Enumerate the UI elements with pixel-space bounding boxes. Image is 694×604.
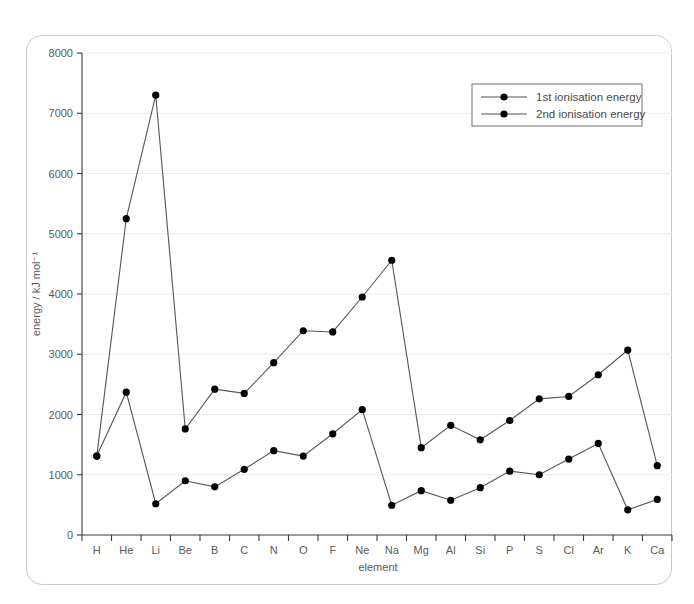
y-axis-tick-label: 1000 <box>49 469 73 481</box>
data-point <box>241 390 248 397</box>
legend-sample-marker <box>500 110 507 117</box>
data-point <box>388 502 395 509</box>
data-point <box>624 506 631 513</box>
x-axis-tick-label: Ca <box>650 544 665 556</box>
x-axis-tick-label: Na <box>385 544 400 556</box>
x-axis-tick-label: Mg <box>414 544 429 556</box>
data-point <box>123 215 130 222</box>
x-axis-tick-label: K <box>624 544 632 556</box>
data-point <box>359 293 366 300</box>
legend-label: 2nd ionisation energy <box>536 108 646 120</box>
series-2 <box>93 92 661 470</box>
data-point <box>565 455 572 462</box>
data-point <box>595 440 602 447</box>
data-point <box>93 452 100 459</box>
y-axis-title: energy / kJ mol⁻¹ <box>30 252 42 337</box>
y-axis-tick-label: 7000 <box>49 107 73 119</box>
x-axis-tick-label: Cl <box>564 544 574 556</box>
data-point <box>182 425 189 432</box>
x-axis-tick-label: Si <box>475 544 485 556</box>
y-axis-tick-label: 0 <box>67 529 73 541</box>
y-axis-tick-label: 5000 <box>49 228 73 240</box>
x-axis-tick-label: C <box>240 544 248 556</box>
data-point <box>300 452 307 459</box>
data-point <box>536 471 543 478</box>
data-point <box>624 346 631 353</box>
x-axis-group: HHeLiBeBCNOFNeNaMgAlSiPSClArKCa <box>82 535 672 556</box>
data-point <box>595 371 602 378</box>
x-axis-tick-label: F <box>329 544 336 556</box>
data-point <box>418 487 425 494</box>
x-axis-title: element <box>358 561 397 573</box>
data-point <box>241 466 248 473</box>
data-point <box>506 417 513 424</box>
data-point <box>329 328 336 335</box>
data-point <box>477 484 484 491</box>
x-axis-tick-label: S <box>536 544 543 556</box>
x-axis-tick-label: Li <box>151 544 160 556</box>
y-axis-tick-label: 3000 <box>49 348 73 360</box>
data-series-group <box>93 92 661 514</box>
series-1 <box>93 389 661 514</box>
x-axis-tick-label: Be <box>179 544 192 556</box>
y-axis-tick-label: 2000 <box>49 409 73 421</box>
data-point <box>270 447 277 454</box>
data-point <box>654 496 661 503</box>
data-point <box>388 257 395 264</box>
legend-sample-marker <box>500 93 507 100</box>
ionisation-energy-line-chart: 010002000300040005000600070008000 HHeLiB… <box>0 0 694 604</box>
data-point <box>359 406 366 413</box>
x-axis-tick-label: H <box>93 544 101 556</box>
x-axis-tick-label: B <box>211 544 218 556</box>
data-point <box>654 462 661 469</box>
series-polyline <box>97 392 658 510</box>
x-axis-tick-label: N <box>270 544 278 556</box>
data-point <box>536 395 543 402</box>
series-polyline <box>97 95 658 466</box>
x-axis-tick-label: Ne <box>355 544 369 556</box>
x-axis-tick-label: O <box>299 544 308 556</box>
data-point <box>211 386 218 393</box>
figure-root: 010002000300040005000600070008000 HHeLiB… <box>0 0 694 604</box>
y-axis-tick-label: 8000 <box>49 47 73 59</box>
data-point <box>182 477 189 484</box>
data-point <box>447 422 454 429</box>
data-point <box>506 468 513 475</box>
y-axis-group: 010002000300040005000600070008000 <box>49 47 82 541</box>
data-point <box>418 444 425 451</box>
data-point <box>211 483 218 490</box>
chart-legend: 1st ionisation energy2nd ionisation ener… <box>472 84 646 126</box>
x-axis-tick-label: P <box>506 544 513 556</box>
data-point <box>152 92 159 99</box>
y-axis-tick-label: 6000 <box>49 168 73 180</box>
data-point <box>300 327 307 334</box>
y-axis-tick-label: 4000 <box>49 288 73 300</box>
x-axis-tick-label: Ar <box>593 544 604 556</box>
data-point <box>565 393 572 400</box>
x-axis-tick-label: Al <box>446 544 456 556</box>
data-point <box>270 359 277 366</box>
data-point <box>447 497 454 504</box>
data-point <box>477 436 484 443</box>
data-point <box>329 430 336 437</box>
x-axis-tick-label: He <box>119 544 133 556</box>
data-point <box>152 500 159 507</box>
legend-label: 1st ionisation energy <box>536 91 642 103</box>
data-point <box>123 389 130 396</box>
